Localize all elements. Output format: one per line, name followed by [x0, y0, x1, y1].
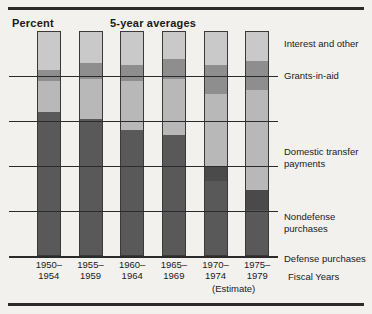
- x-tick-label: 1950–1954: [28, 259, 70, 281]
- x-axis-title: Fiscal Years: [288, 271, 339, 282]
- bar-segment: [246, 210, 268, 255]
- bar-segment: [38, 70, 60, 81]
- axis-tick: [9, 211, 28, 212]
- bar-segment: [246, 190, 268, 210]
- bar-segment: [246, 61, 268, 90]
- bar-segment: [163, 32, 185, 59]
- bar-segment: [163, 59, 185, 79]
- bar-slot: [70, 31, 112, 256]
- bar-segment: [38, 112, 60, 255]
- bar-segment: [163, 79, 185, 135]
- legend-label: Domestic transfer: [284, 146, 358, 158]
- bar-segment: [80, 119, 102, 255]
- bottom-rule: [8, 303, 364, 306]
- bar-segment: [121, 130, 143, 255]
- bar-segment: [38, 81, 60, 112]
- bar-group: [28, 31, 278, 256]
- top-rule: [8, 7, 364, 10]
- axis-baseline: [9, 256, 278, 258]
- legend-label: Defense purchases: [284, 253, 366, 265]
- x-tick-label: 1965–1969: [153, 259, 195, 281]
- bar-segment: [205, 94, 227, 165]
- stacked-bar[interactable]: [162, 31, 186, 256]
- legend-label: payments: [284, 158, 325, 170]
- stacked-bar[interactable]: [120, 31, 144, 256]
- bar-slot: [236, 31, 278, 256]
- axis-tick: [9, 121, 28, 122]
- legend-label: Nondefense: [284, 211, 335, 223]
- bar-segment: [246, 32, 268, 61]
- x-tick-label: 1955–1959: [70, 259, 112, 281]
- axis-tick: [9, 166, 28, 167]
- x-tick-label: 1970–1974: [195, 259, 237, 281]
- x-tick-label: 1960–1964: [111, 259, 153, 281]
- bar-slot: [153, 31, 195, 256]
- legend-label: Grants-in-aid: [284, 70, 339, 82]
- stacked-bar[interactable]: [79, 31, 103, 256]
- axis-tick: [9, 76, 28, 77]
- bar-segment: [205, 166, 227, 182]
- bar-segment: [205, 32, 227, 65]
- stacked-bar[interactable]: [245, 31, 269, 256]
- bar-segment: [121, 32, 143, 65]
- x-axis-labels: 1950–19541955–19591960–19641965–19691970…: [28, 259, 278, 281]
- bar-segment: [205, 181, 227, 255]
- stacked-bar[interactable]: [204, 31, 228, 256]
- bar-segment: [121, 65, 143, 81]
- bar-segment: [205, 65, 227, 94]
- legend-label: Interest and other: [284, 38, 358, 50]
- x-tick-label: 1975–1979: [236, 259, 278, 281]
- y-axis-title: Percent: [12, 17, 54, 29]
- bar-slot: [28, 31, 70, 256]
- legend-label: purchases: [284, 223, 328, 235]
- bar-segment: [121, 81, 143, 130]
- legend: Interest and otherGrants-in-aidDomestic …: [284, 31, 370, 256]
- bar-segment: [163, 135, 185, 255]
- bar-segment: [38, 32, 60, 70]
- bar-segment: [246, 90, 268, 190]
- estimate-note: (Estimate): [212, 283, 255, 294]
- bar-slot: [111, 31, 153, 256]
- bar-segment: [80, 79, 102, 119]
- stacked-bar[interactable]: [37, 31, 61, 256]
- plot-area: 020406080: [28, 31, 278, 256]
- chart-subtitle: 5-year averages: [110, 17, 196, 29]
- bar-slot: [195, 31, 237, 256]
- bar-segment: [80, 32, 102, 63]
- bar-segment: [80, 63, 102, 79]
